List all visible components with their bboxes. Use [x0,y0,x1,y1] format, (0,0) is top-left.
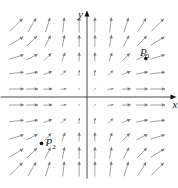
field-arrow [124,162,129,177]
field-arrow [109,133,113,142]
field-arrow [138,162,146,176]
field-arrow [62,147,65,159]
arrowhead-icon [62,147,65,150]
field-arrow [124,18,129,33]
field-arrow-shaft [94,104,96,106]
arrowhead-icon [145,87,148,91]
field-arrow [93,35,97,47]
field-arrow [109,53,113,62]
point-p1: P1 [139,46,151,61]
field-arrow [43,103,52,106]
field-arrow [27,148,37,158]
field-arrow [109,18,112,33]
field-arrow [26,54,37,60]
arrowhead-icon [162,71,165,74]
field-arrow [108,119,113,124]
field-arrow [122,87,131,90]
field-arrow [136,71,148,74]
field-arrow [123,147,129,158]
field-arrow [94,118,96,124]
arrowhead-icon [109,162,112,165]
field-arrow [151,19,163,31]
arrowhead-icon [94,70,96,72]
field-arrow [77,35,81,47]
field-arrow [137,148,147,158]
field-arrow [10,163,22,175]
field-arrow-shaft [78,104,80,106]
field-arrow [26,87,38,91]
field-arrow [151,37,165,45]
arrowhead-icon [62,162,65,165]
field-arrow [62,133,66,142]
y-axis-label: y [77,8,83,20]
field-arrow [43,87,52,90]
field-arrow [151,149,165,157]
field-arrow [136,87,148,91]
arrowhead-icon [49,103,52,106]
field-arrow [150,54,165,59]
field-arrow [93,53,96,62]
arrowhead-icon [109,35,112,38]
arrowhead-icon [162,119,165,122]
point-p2: P2 [40,136,57,151]
vector-field-plot: x y P1P2 [0,0,178,188]
field-arrow [108,71,113,76]
field-arrow-shaft [78,88,80,90]
field-arrow [28,162,36,176]
field-arrow [94,88,96,90]
arrowhead-icon [21,103,24,107]
arrowhead-icon [77,133,80,136]
field-arrow [9,119,24,122]
field-arrow [109,35,112,47]
arrowhead-icon [35,103,38,107]
field-arrow [26,103,38,107]
field-arrow [26,71,38,74]
field-arrow [150,71,165,74]
field-arrow [9,71,24,74]
field-arrow [9,37,23,45]
arrowhead-icon [93,133,96,136]
field-arrow [150,119,165,122]
field-arrow [45,147,51,158]
arrowhead-icon [62,35,65,38]
arrowhead-icon [93,147,97,150]
vector-field-diagram: x y P1P2 [0,0,178,188]
field-arrow [77,147,81,159]
field-arrow [136,134,147,140]
field-arrow [43,119,52,123]
field-arrow [9,134,24,139]
field-arrow [26,134,37,140]
field-arrow [94,104,96,106]
field-arrow [9,87,24,91]
field-arrow [28,18,36,32]
arrowhead-icon [128,87,131,90]
field-arrow [62,35,65,47]
arrowhead-icon [49,87,52,90]
arrowhead-icon [109,18,112,21]
field-arrow [45,35,51,46]
field-arrow [93,133,96,142]
field-arrow [45,162,50,177]
field-arrow [93,162,97,177]
x-axis-label: x [171,98,177,110]
arrowhead-icon [77,162,81,165]
field-arrow [78,118,80,124]
field-arrow [108,88,114,90]
field-arrow [61,71,66,76]
field-arrow [45,18,50,33]
arrowhead-icon [93,35,97,38]
field-arrow [122,103,131,106]
arrowhead-icon [35,71,38,74]
arrowhead-icon [128,103,131,106]
field-arrow [109,162,112,177]
arrowhead-icon [62,18,65,21]
field-arrow [10,19,22,31]
field-arrow [123,133,130,140]
arrowhead-icon [144,71,147,74]
field-arrow [93,147,97,159]
field-arrow [122,119,131,123]
field-arrow [27,36,37,46]
field-arrow [150,103,165,107]
field-arrow [9,149,23,157]
field-arrow [122,71,131,75]
